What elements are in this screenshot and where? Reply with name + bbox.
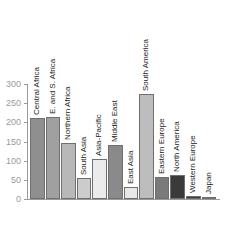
- bar: [124, 187, 139, 199]
- bar-label: Japan: [204, 173, 214, 195]
- y-tick: [24, 161, 28, 162]
- bar-label: Middle East: [110, 100, 120, 142]
- bar-label: Asia-Pacific: [94, 114, 104, 156]
- bar-label: North America: [172, 122, 182, 173]
- y-tick: [24, 180, 28, 181]
- bar-chart: 050100150200250300Central AfricaE. and S…: [0, 0, 240, 228]
- bar-label: East Asia: [126, 151, 136, 184]
- bar: [92, 159, 107, 199]
- bar-label: Eastern Europe: [157, 119, 167, 175]
- y-tick-label: 250: [1, 98, 21, 108]
- y-tick-label: 50: [1, 175, 21, 185]
- y-tick: [24, 103, 28, 104]
- bar: [30, 118, 45, 199]
- bar: [77, 178, 92, 199]
- y-tick-label: 300: [1, 79, 21, 89]
- bar: [186, 196, 201, 199]
- bar: [46, 117, 61, 199]
- y-tick-label: 200: [1, 117, 21, 127]
- bar-label: E. and S. Africa: [48, 59, 58, 114]
- y-tick: [24, 122, 28, 123]
- y-tick-label: 150: [1, 137, 21, 147]
- bar-label: Central Africa: [32, 67, 42, 115]
- bar: [61, 143, 76, 199]
- bar: [139, 94, 154, 199]
- y-tick: [24, 142, 28, 143]
- bar-label: Western Europe: [188, 135, 198, 193]
- bar-label: South America: [141, 39, 151, 91]
- y-tick: [24, 199, 28, 200]
- x-axis: [27, 199, 220, 200]
- y-tick: [24, 84, 28, 85]
- bar: [155, 177, 170, 199]
- bar: [108, 145, 123, 199]
- bar: [170, 175, 185, 199]
- y-tick-label: 100: [1, 156, 21, 166]
- bar-label: South Asia: [79, 137, 89, 175]
- bar: [202, 197, 217, 199]
- bar-label: Northern Africa: [63, 87, 73, 140]
- y-tick-label: 0: [1, 194, 21, 204]
